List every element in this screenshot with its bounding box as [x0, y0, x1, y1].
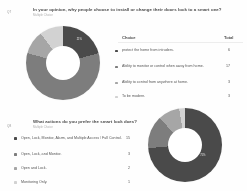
choice-total: 3 [118, 152, 130, 156]
question-number: Q8 [7, 124, 12, 128]
choice-label: To be modern. [122, 94, 145, 98]
header-divider [118, 42, 243, 43]
choice-label: Open and Lock. [21, 166, 47, 170]
legend-swatch-icon [14, 181, 17, 184]
choice-total: 6 [218, 48, 230, 52]
donut-hole [46, 46, 80, 80]
choice-label: Open, Lock, Monitor, Alarm, and Multiple… [21, 136, 122, 140]
donut-chart-q8: 71% [148, 108, 222, 182]
donut-slice-label: 21% [77, 38, 82, 41]
choice-total: 3 [218, 80, 230, 84]
choice-total: 17 [218, 64, 230, 68]
question-title: What actions do you prefer the smart loc… [33, 119, 137, 124]
choice-label: protect the home from intruders. [122, 48, 174, 52]
column-header-total: Total [224, 35, 233, 40]
donut-hole [168, 128, 202, 162]
donut-chart-q7: 21% [26, 26, 100, 100]
choice-total: 3 [218, 94, 230, 98]
legend-swatch-icon [14, 137, 17, 140]
donut-slice-label: 71% [200, 154, 205, 157]
choice-label: Monitoring Only. [21, 180, 47, 184]
legend-swatch-icon [14, 167, 17, 170]
column-header-choice: Choice [122, 35, 136, 40]
question-subtitle: Multiple Choice [33, 13, 53, 17]
legend-swatch-icon [115, 50, 118, 53]
choice-total: 15 [118, 136, 130, 140]
question-title: In your opinion, why people choose to in… [33, 7, 222, 12]
question-subtitle: Multiple Choice [33, 125, 53, 129]
legend-swatch-icon [14, 153, 17, 156]
question-number: Q7 [7, 10, 12, 14]
legend-swatch-icon [115, 96, 118, 99]
choice-label: Ability to monitor or control when away … [122, 64, 204, 68]
choice-total: 2 [118, 166, 130, 170]
choice-total: 1 [118, 180, 130, 184]
survey-report-page: Q7 In your opinion, why people choose to… [0, 0, 247, 191]
choice-label: Open, Lock, and Monitor. [21, 152, 62, 156]
legend-swatch-icon [115, 82, 118, 85]
legend-swatch-icon [115, 66, 118, 69]
choice-label: Ability to control from anywhere at home… [122, 80, 188, 84]
